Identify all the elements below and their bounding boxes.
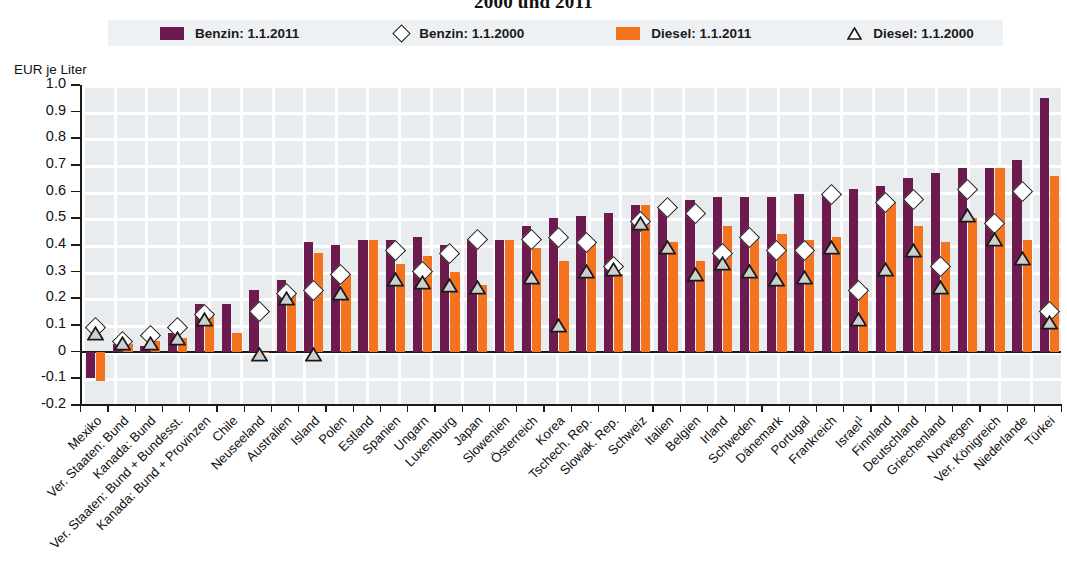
x-axis-tick — [189, 404, 190, 412]
bar-benzin-2011[interactable] — [413, 237, 422, 352]
legend-label: Diesel: 1.1.2011 — [651, 26, 751, 41]
marker-diesel-2000[interactable] — [87, 326, 104, 341]
bar-benzin-2011[interactable] — [222, 304, 231, 352]
x-axis-tick — [571, 404, 572, 412]
legend-item-benzin-2011[interactable]: Benzin: 1.1.2011 — [160, 26, 299, 41]
marker-diesel-2000[interactable] — [578, 264, 595, 279]
x-axis-tick — [543, 404, 544, 412]
legend-item-diesel-2000[interactable]: Diesel: 1.1.2000 — [847, 26, 974, 41]
marker-diesel-2000[interactable] — [714, 256, 731, 271]
x-axis-tick — [489, 404, 490, 412]
marker-diesel-2000[interactable] — [605, 262, 622, 277]
bar-diesel-2011[interactable] — [587, 242, 596, 351]
bar-benzin-2011[interactable] — [495, 240, 504, 352]
marker-diesel-2000[interactable] — [251, 347, 268, 362]
bar-benzin-2011[interactable] — [658, 208, 667, 352]
marker-diesel-2000[interactable] — [632, 216, 649, 231]
y-axis-tick — [71, 217, 80, 219]
marker-diesel-2000[interactable] — [332, 286, 349, 301]
y-axis-tick — [71, 271, 80, 273]
chart-legend: Benzin: 1.1.2011 Benzin: 1.1.2000 Diesel… — [108, 20, 1003, 46]
y-axis-tick — [71, 191, 80, 193]
x-axis-tick — [816, 404, 817, 412]
marker-diesel-2000[interactable] — [142, 336, 159, 351]
y-axis-tick-label: -0.2 — [8, 395, 66, 411]
y-axis-tick-label: 0.3 — [8, 262, 66, 278]
marker-diesel-2000[interactable] — [305, 347, 322, 362]
marker-diesel-2000[interactable] — [741, 264, 758, 279]
marker-diesel-2000[interactable] — [469, 280, 486, 295]
y-axis-tick — [71, 164, 80, 166]
bar-diesel-2011[interactable] — [995, 168, 1004, 352]
marker-diesel-2000[interactable] — [850, 312, 867, 327]
x-axis-tick — [516, 404, 517, 412]
x-axis-tick — [925, 404, 926, 412]
y-axis-tick-label: 0.1 — [8, 315, 66, 331]
marker-diesel-2000[interactable] — [659, 240, 676, 255]
bar-diesel-2011[interactable] — [96, 352, 105, 381]
x-axis-tick — [1061, 404, 1062, 412]
marker-diesel-2000[interactable] — [387, 272, 404, 287]
legend-item-benzin-2000[interactable]: Benzin: 1.1.2000 — [395, 26, 524, 41]
filled-square-icon — [160, 27, 184, 40]
marker-diesel-2000[interactable] — [1041, 315, 1058, 330]
bar-benzin-2011[interactable] — [985, 168, 994, 352]
bar-benzin-2011[interactable] — [467, 240, 476, 352]
x-axis-tick — [434, 404, 435, 412]
marker-diesel-2000[interactable] — [823, 240, 840, 255]
marker-diesel-2000[interactable] — [278, 291, 295, 306]
x-axis-tick — [843, 404, 844, 412]
marker-diesel-2000[interactable] — [986, 232, 1003, 247]
y-axis-tick — [71, 84, 80, 86]
chart-title: 2000 und 2011 — [0, 0, 1067, 13]
x-axis-tick — [979, 404, 980, 412]
x-axis-tick — [162, 404, 163, 412]
marker-diesel-2000[interactable] — [877, 262, 894, 277]
x-axis-tick — [107, 404, 108, 412]
bar-benzin-2011[interactable] — [358, 240, 367, 352]
filled-square-icon — [616, 27, 640, 40]
bar-benzin-2011[interactable] — [249, 290, 258, 351]
bar-diesel-2011[interactable] — [314, 253, 323, 352]
bar-diesel-2011[interactable] — [505, 240, 514, 352]
x-axis-tick — [244, 404, 245, 412]
y-axis-tick — [71, 404, 80, 406]
x-axis-tick — [652, 404, 653, 412]
marker-diesel-2000[interactable] — [196, 312, 213, 327]
y-axis-tick-label: 0.5 — [8, 208, 66, 224]
marker-diesel-2000[interactable] — [114, 336, 131, 351]
x-axis-tick — [789, 404, 790, 412]
x-axis-tick — [325, 404, 326, 412]
bar-diesel-2011[interactable] — [232, 333, 241, 352]
marker-diesel-2000[interactable] — [959, 208, 976, 223]
bar-benzin-2011[interactable] — [604, 213, 613, 352]
marker-diesel-2000[interactable] — [1014, 251, 1031, 266]
bar-benzin-2011[interactable] — [713, 197, 722, 352]
marker-diesel-2000[interactable] — [441, 278, 458, 293]
bar-diesel-2011[interactable] — [614, 274, 623, 351]
x-axis-tick — [298, 404, 299, 412]
marker-diesel-2000[interactable] — [905, 243, 922, 258]
bar-diesel-2011[interactable] — [532, 248, 541, 352]
legend-label: Diesel: 1.1.2000 — [873, 26, 974, 41]
marker-diesel-2000[interactable] — [796, 270, 813, 285]
x-axis-tick — [216, 404, 217, 412]
legend-item-diesel-2011[interactable]: Diesel: 1.1.2011 — [616, 26, 751, 41]
marker-diesel-2000[interactable] — [414, 275, 431, 290]
bar-diesel-2011[interactable] — [559, 261, 568, 352]
bar-diesel-2011[interactable] — [369, 240, 378, 352]
legend-label: Benzin: 1.1.2011 — [195, 26, 299, 41]
bar-benzin-2011[interactable] — [822, 194, 831, 351]
bar-benzin-2011[interactable] — [86, 352, 95, 379]
marker-diesel-2000[interactable] — [932, 280, 949, 295]
marker-diesel-2000[interactable] — [768, 272, 785, 287]
marker-diesel-2000[interactable] — [169, 331, 186, 346]
bar-diesel-2011[interactable] — [668, 242, 677, 351]
bar-diesel-2011[interactable] — [750, 237, 759, 352]
marker-diesel-2000[interactable] — [523, 270, 540, 285]
bar-diesel-2011[interactable] — [886, 202, 895, 351]
marker-diesel-2000[interactable] — [550, 318, 567, 333]
bar-benzin-2011[interactable] — [849, 189, 858, 352]
marker-diesel-2000[interactable] — [687, 267, 704, 282]
bar-diesel-2011[interactable] — [968, 218, 977, 351]
